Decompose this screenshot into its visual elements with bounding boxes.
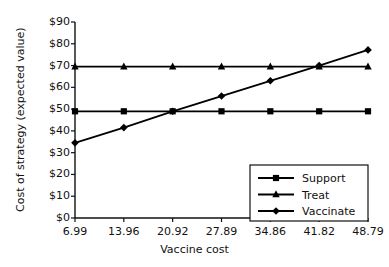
legend-label: Treat: [301, 189, 330, 202]
chart-legend: SupportTreatVaccinate: [250, 165, 368, 221]
data-point: [72, 108, 78, 114]
y-tick-label: $40: [26, 124, 70, 137]
y-tick-label: $0: [26, 211, 70, 224]
y-tick-label: $20: [26, 167, 70, 180]
y-tick-label: $10: [26, 189, 70, 202]
y-tick-label: $80: [26, 37, 70, 50]
data-point: [71, 139, 79, 147]
y-tick-label: $90: [26, 15, 70, 28]
series-vaccinate: [71, 46, 372, 147]
legend-marker: [273, 175, 279, 181]
data-series-layer: [71, 46, 372, 147]
y-tick-label: $30: [26, 146, 70, 159]
data-point: [121, 108, 127, 114]
series-support: [72, 108, 371, 114]
data-point: [120, 124, 128, 132]
data-point: [218, 108, 224, 114]
data-point: [267, 108, 273, 114]
y-tick-label: $50: [26, 102, 70, 115]
y-tick-label: $70: [26, 59, 70, 72]
data-point: [364, 46, 372, 54]
y-tick-label: $60: [26, 80, 70, 93]
x-tick-label: 48.79: [338, 225, 389, 238]
data-point: [316, 108, 322, 114]
data-point: [218, 92, 226, 100]
legend-label: Support: [302, 172, 346, 185]
chart-container: Cost of strategy (expected value) Vaccin…: [0, 0, 389, 267]
legend-label: Vaccinate: [302, 205, 356, 218]
data-point: [365, 108, 371, 114]
data-point: [267, 77, 275, 85]
